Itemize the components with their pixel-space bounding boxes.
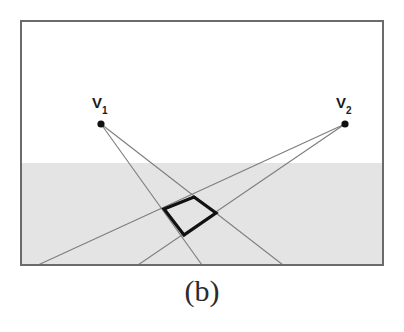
- vanishing-point-1-label-main: V: [92, 94, 102, 111]
- vanishing-point-1-dot: [97, 120, 104, 127]
- vanishing-point-2-label-main: V: [336, 94, 346, 111]
- figure-caption: (b): [0, 276, 404, 306]
- figure-container: V1 V2 (b): [0, 0, 404, 332]
- vanishing-point-2-dot: [341, 120, 348, 127]
- vanishing-point-1-label-subscript: 1: [102, 105, 108, 116]
- ground-plane-shading: [21, 163, 383, 265]
- vanishing-point-2-label: V2: [336, 95, 352, 114]
- vanishing-point-1-label: V1: [92, 95, 108, 114]
- vanishing-point-2-label-subscript: 2: [346, 105, 352, 116]
